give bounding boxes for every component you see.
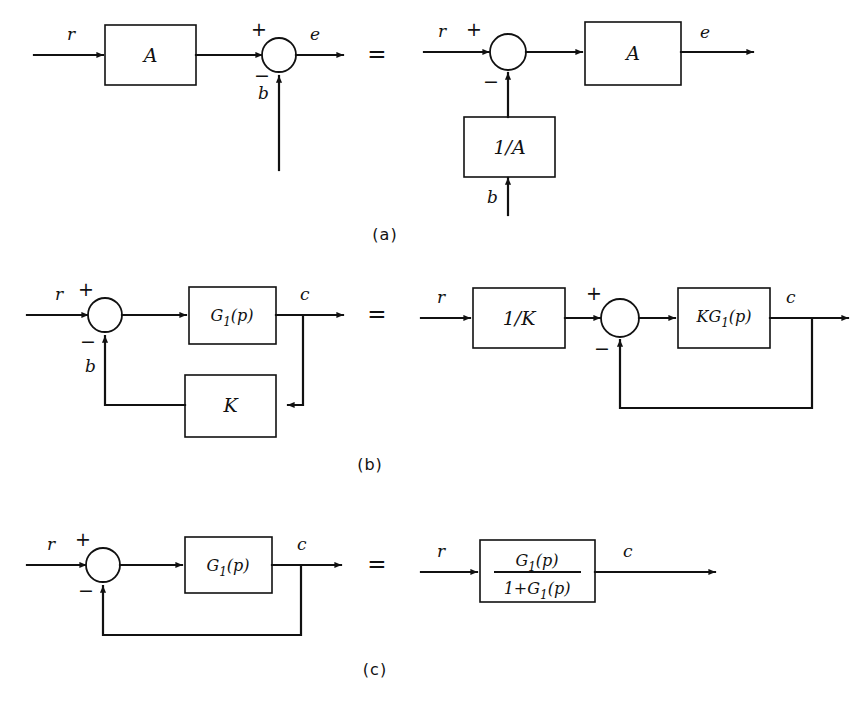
- sign-plus-b-left: +: [78, 278, 94, 300]
- label-input-r-right: r: [438, 21, 447, 41]
- block-g1-b-left-base: G: [210, 306, 223, 325]
- row-b-right-diagram: r 1/K + − KG1(p) c: [421, 282, 848, 408]
- row-c: r + − G1(p) c =: [27, 528, 715, 679]
- sign-minus-a-right: −: [483, 70, 499, 92]
- label-output-c-b-left: c: [300, 284, 310, 304]
- row-a-left-diagram: r A + − b e: [34, 18, 343, 170]
- block-g1-b-left-arg: (p): [231, 306, 254, 325]
- block-g1-c-left-arg: (p): [227, 556, 250, 575]
- equals-sign-row-c: =: [367, 551, 386, 577]
- equals-sign-row-a: =: [367, 41, 386, 67]
- label-input-r-c-left: r: [47, 534, 56, 554]
- summing-junction-a-right: [490, 34, 526, 70]
- sign-plus-b-right: +: [586, 282, 602, 304]
- closed-loop-numerator-arg: (p): [536, 551, 559, 570]
- block-inverse-k-label: 1/K: [503, 307, 537, 329]
- closed-loop-denominator-sub: 1: [540, 588, 548, 602]
- closed-loop-numerator-base: G: [515, 551, 528, 570]
- closed-loop-denominator-prefix: 1+G: [504, 579, 541, 598]
- summing-junction-c-left: [86, 548, 120, 582]
- block-diagram-figure: r A + − b e =: [0, 0, 861, 704]
- closed-loop-denominator-arg: (p): [548, 579, 571, 598]
- row-c-left-diagram: r + − G1(p) c: [27, 528, 341, 635]
- sign-plus-a-left: +: [251, 18, 267, 40]
- caption-row-a: (a): [372, 225, 397, 244]
- label-input-r-b-left: r: [55, 284, 64, 304]
- block-g1-b-left-sub: 1: [223, 315, 231, 329]
- row-b-left-diagram: r + − G1(p) c K: [27, 278, 343, 437]
- block-kg1-sub: 1: [721, 316, 729, 330]
- block-k-b-left-label: K: [222, 394, 239, 416]
- row-a-right-diagram: r + − A e 1/A b: [424, 18, 753, 215]
- sign-minus-b-right: −: [594, 337, 610, 359]
- row-c-right-diagram: r G1(p) 1+G1(p) c: [421, 540, 715, 602]
- sign-plus-a-right: +: [466, 18, 482, 40]
- block-g1-c-left-sub: 1: [219, 565, 227, 579]
- label-feedback-input-b-right: b: [487, 187, 498, 207]
- summing-junction-b-left: [88, 298, 122, 332]
- block-a-label: A: [142, 44, 158, 66]
- label-output-c-c-left: c: [297, 534, 307, 554]
- label-feedback-b: b: [258, 83, 269, 103]
- row-a: r A + − b e =: [34, 18, 753, 244]
- label-output-e: e: [310, 24, 320, 44]
- label-input-r-b-right: r: [437, 287, 446, 307]
- label-input-r: r: [67, 24, 76, 44]
- label-input-r-c-right: r: [437, 541, 446, 561]
- label-output-c-c-right: c: [623, 541, 633, 561]
- block-diagram-canvas: r A + − b e =: [0, 0, 861, 704]
- wire-k-to-sum: [105, 336, 185, 405]
- equals-sign-row-b: =: [367, 301, 386, 327]
- block-inverse-a-label: 1/A: [493, 136, 525, 158]
- block-kg1-prefix: KG: [695, 307, 721, 326]
- row-b: r + − G1(p) c K: [27, 278, 848, 474]
- label-output-c-b-right: c: [786, 287, 796, 307]
- label-feedback-b-b-left: b: [85, 356, 96, 376]
- summing-junction-b-right: [601, 299, 639, 337]
- sign-minus-c-left: −: [78, 579, 94, 601]
- sign-plus-c-left: +: [75, 528, 91, 550]
- sign-minus-b-left: −: [80, 330, 96, 352]
- caption-row-c: (c): [363, 660, 387, 679]
- caption-row-b: (b): [357, 455, 383, 474]
- block-kg1-arg: (p): [729, 307, 752, 326]
- wire-takeoff-to-k: [288, 315, 303, 405]
- label-output-e-right: e: [700, 22, 710, 42]
- block-g1-c-left-base: G: [206, 556, 219, 575]
- block-a-right-label: A: [624, 42, 640, 64]
